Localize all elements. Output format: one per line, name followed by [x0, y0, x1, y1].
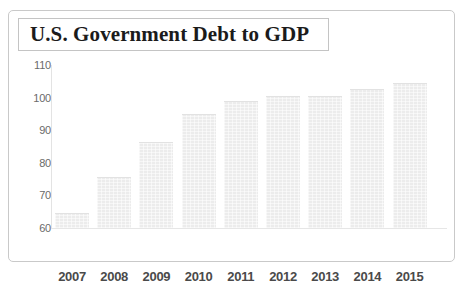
bar-2009 [139, 142, 173, 228]
page-title: U.S. Government Debt to GDP [19, 24, 309, 45]
y-axis-tick-label: 60 [11, 223, 51, 234]
bar-2012 [266, 96, 300, 228]
x-axis-tick-label: 2012 [263, 270, 303, 283]
bar-2015 [393, 83, 427, 228]
chart-card-frame: U.S. Government Debt to GDP 110100908070… [8, 10, 455, 262]
bar-2011 [224, 101, 258, 228]
y-axis-tick-label: 100 [11, 92, 51, 103]
y-axis-tick-label: 70 [11, 190, 51, 201]
y-axis-line [51, 65, 52, 229]
x-axis-tick-label: 2011 [221, 270, 261, 283]
bar-2007 [55, 213, 89, 228]
x-axis-tick-label: 2007 [52, 270, 92, 283]
y-axis-tick-label: 90 [11, 125, 51, 136]
x-axis-tick-label: 2014 [347, 270, 387, 283]
bars-layer: 200720082009201020112012201320142015 [55, 57, 447, 261]
plot-area: 11010090807060 2007200820092010201120122… [9, 57, 454, 261]
bar-2013 [308, 96, 342, 228]
y-axis-tick-label: 80 [11, 157, 51, 168]
x-axis-tick-label: 2013 [305, 270, 345, 283]
x-axis-tick-label: 2010 [179, 270, 219, 283]
bar-2014 [350, 89, 384, 228]
bar-2010 [182, 114, 216, 228]
chart-title-box: U.S. Government Debt to GDP [18, 18, 329, 51]
x-axis-tick-label: 2009 [136, 270, 176, 283]
y-axis: 11010090807060 [9, 57, 51, 261]
x-axis-tick-label: 2008 [94, 270, 134, 283]
y-axis-tick-label: 110 [11, 60, 51, 71]
bar-2008 [97, 177, 131, 228]
x-axis-tick-label: 2015 [390, 270, 430, 283]
